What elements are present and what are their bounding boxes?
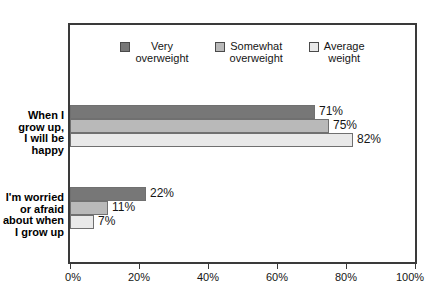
bar-value-label: 82%	[357, 132, 381, 147]
bar-group-group1: 71% 75% 82%	[70, 105, 415, 147]
x-tick-label: 60%	[266, 271, 288, 283]
x-tick	[70, 264, 71, 269]
x-tick	[277, 264, 278, 269]
bar-row: 22%	[70, 187, 415, 201]
bar-row: 71%	[70, 105, 415, 119]
x-tick-label: 100%	[396, 271, 424, 283]
bar-average-weight[interactable]	[70, 133, 353, 147]
x-tick	[415, 264, 416, 269]
bar-group-group2: 22% 11% 7%	[70, 187, 415, 229]
bar-somewhat-overweight[interactable]	[70, 119, 329, 133]
bar-average-weight[interactable]	[70, 215, 94, 229]
bar-row: 82%	[70, 133, 415, 147]
x-tick-label: 20%	[128, 271, 150, 283]
category-label-group1: When I grow up, I will be happy	[0, 110, 64, 156]
x-tick-label: 80%	[335, 271, 357, 283]
x-axis: 0% 20% 40% 60% 80% 100%	[68, 264, 417, 294]
x-tick-label: 0%	[65, 271, 81, 283]
x-tick	[208, 264, 209, 269]
bar-value-label: 75%	[333, 118, 357, 133]
x-tick	[139, 264, 140, 269]
bar-chart: Very overweight Somewhat overweight Aver…	[0, 0, 439, 305]
chart-title-cropped	[0, 0, 439, 10]
x-tick	[346, 264, 347, 269]
bar-value-label: 22%	[150, 186, 174, 201]
bars-layer: 71% 75% 82% 22% 11% 7%	[70, 25, 415, 262]
bar-somewhat-overweight[interactable]	[70, 201, 108, 215]
bar-value-label: 71%	[319, 104, 343, 119]
bar-value-label: 7%	[98, 214, 115, 229]
bar-very-overweight[interactable]	[70, 187, 146, 201]
category-label-group2: I'm worried or afraid about when I grow …	[0, 192, 64, 238]
bar-row: 11%	[70, 201, 415, 215]
bar-row: 75%	[70, 119, 415, 133]
bar-value-label: 11%	[112, 200, 135, 215]
bar-very-overweight[interactable]	[70, 105, 315, 119]
bar-row: 7%	[70, 215, 415, 229]
x-tick-label: 40%	[197, 271, 219, 283]
